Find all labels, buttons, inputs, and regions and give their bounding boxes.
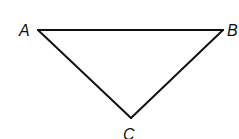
vertex-labels: A B C xyxy=(18,22,238,139)
vertex-label-a: A xyxy=(18,22,30,39)
triangle-diagram: A B C xyxy=(0,0,239,139)
triangle-edges xyxy=(38,30,223,118)
vertex-label-b: B xyxy=(227,22,238,39)
vertex-label-c: C xyxy=(123,126,135,139)
edge-ca xyxy=(38,30,131,118)
edge-bc xyxy=(131,30,223,118)
